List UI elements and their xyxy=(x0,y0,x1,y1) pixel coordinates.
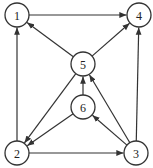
node-label: 4 xyxy=(136,9,142,23)
node-label: 1 xyxy=(14,9,20,23)
node-label: 6 xyxy=(80,101,86,115)
node-3: 3 xyxy=(124,141,148,165)
edge-3-to-4 xyxy=(136,27,138,141)
node-1: 1 xyxy=(5,3,29,27)
node-5: 5 xyxy=(71,52,95,76)
directed-graph: 145623 xyxy=(0,0,153,168)
node-label: 3 xyxy=(133,147,139,161)
node-4: 4 xyxy=(127,3,151,27)
edge-5-to-1 xyxy=(27,22,73,56)
edges-layer xyxy=(17,15,139,153)
node-label: 5 xyxy=(80,58,86,72)
node-2: 2 xyxy=(5,141,29,165)
edge-5-to-2 xyxy=(24,74,75,143)
node-6: 6 xyxy=(71,95,95,119)
node-label: 2 xyxy=(14,147,20,161)
edge-5-to-4 xyxy=(92,23,130,56)
